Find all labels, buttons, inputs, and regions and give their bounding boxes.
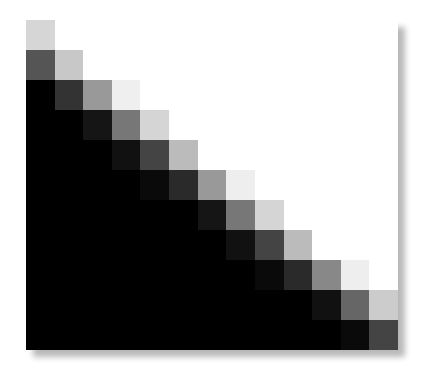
pixel-cell [83,110,112,140]
pixel-cell [112,110,141,140]
pixel-cell [255,140,284,170]
pixel-cell [26,80,55,110]
pixel-cell [112,170,141,200]
pixel-cell [83,260,112,290]
pixel-cell [284,290,313,320]
pixel-cell [255,290,284,320]
pixel-cell [169,320,198,350]
pixel-cell [226,110,255,140]
pixel-cell [26,170,55,200]
pixel-cell [83,20,112,50]
pixel-cell [369,260,398,290]
pixel-cell [83,50,112,80]
pixel-cell [198,260,227,290]
pixel-cell [312,320,341,350]
pixel-cell [255,260,284,290]
pixel-cell [255,20,284,50]
pixel-cell [284,200,313,230]
pixel-cell [140,110,169,140]
pixel-cell [226,50,255,80]
pixel-cell [55,200,84,230]
pixel-cell [55,50,84,80]
pixel-cell [83,230,112,260]
pixel-cell [284,320,313,350]
pixel-cell [169,260,198,290]
pixel-cell [55,20,84,50]
pixel-cell [341,200,370,230]
pixel-cell [369,110,398,140]
pixel-cell [55,230,84,260]
pixel-staircase-frame [26,20,398,350]
pixel-cell [226,170,255,200]
pixel-cell [312,140,341,170]
pixel-cell [140,170,169,200]
pixel-cell [83,290,112,320]
pixel-cell [198,230,227,260]
canvas [0,0,429,380]
pixel-cell [112,50,141,80]
pixel-cell [226,140,255,170]
pixel-cell [341,80,370,110]
pixel-cell [140,20,169,50]
pixel-cell [226,200,255,230]
pixel-cell [140,230,169,260]
pixel-grid [26,20,398,350]
pixel-cell [198,290,227,320]
pixel-cell [226,290,255,320]
pixel-cell [312,260,341,290]
pixel-cell [112,20,141,50]
pixel-cell [112,230,141,260]
pixel-cell [369,320,398,350]
pixel-cell [312,230,341,260]
pixel-cell [140,140,169,170]
pixel-cell [284,110,313,140]
pixel-cell [55,260,84,290]
pixel-cell [198,170,227,200]
pixel-cell [140,200,169,230]
pixel-cell [312,20,341,50]
pixel-cell [369,230,398,260]
pixel-cell [112,80,141,110]
pixel-cell [26,20,55,50]
pixel-cell [83,80,112,110]
pixel-cell [112,140,141,170]
pixel-cell [226,320,255,350]
pixel-cell [255,80,284,110]
pixel-cell [198,140,227,170]
pixel-cell [226,20,255,50]
pixel-cell [26,290,55,320]
pixel-cell [341,20,370,50]
pixel-cell [169,140,198,170]
pixel-cell [312,80,341,110]
pixel-cell [341,260,370,290]
pixel-cell [284,140,313,170]
pixel-cell [255,200,284,230]
pixel-cell [226,80,255,110]
pixel-cell [169,230,198,260]
pixel-cell [140,320,169,350]
pixel-cell [369,50,398,80]
pixel-cell [55,110,84,140]
pixel-cell [255,320,284,350]
pixel-cell [169,200,198,230]
pixel-cell [226,260,255,290]
pixel-cell [169,170,198,200]
pixel-cell [312,170,341,200]
pixel-cell [198,320,227,350]
pixel-cell [226,230,255,260]
pixel-cell [55,320,84,350]
pixel-cell [55,170,84,200]
pixel-cell [255,170,284,200]
pixel-cell [284,260,313,290]
pixel-cell [341,320,370,350]
pixel-cell [312,110,341,140]
pixel-cell [83,320,112,350]
pixel-cell [55,290,84,320]
pixel-cell [284,230,313,260]
pixel-cell [284,80,313,110]
pixel-cell [140,260,169,290]
pixel-cell [255,110,284,140]
pixel-cell [255,50,284,80]
pixel-cell [369,290,398,320]
pixel-cell [26,230,55,260]
